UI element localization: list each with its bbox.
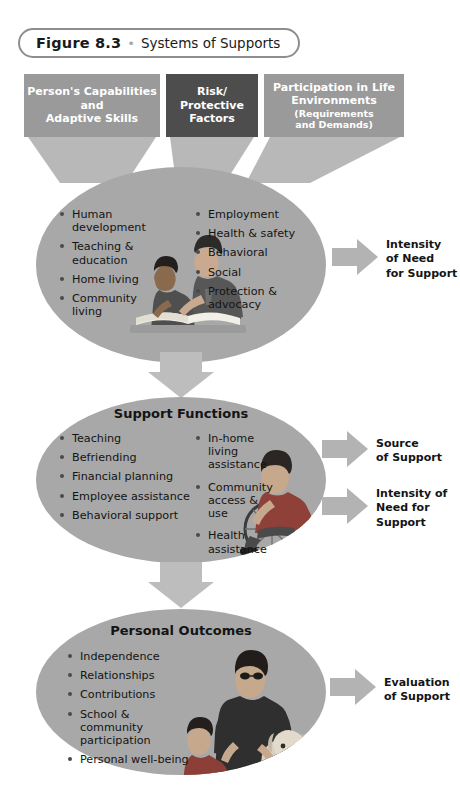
label-line-1: Intensity (386, 238, 458, 252)
label-line-3: Support (376, 516, 454, 530)
list-item: Independence (68, 650, 190, 663)
arrow-evaluation-of-support (330, 669, 376, 705)
label-evaluation-of-support: Evaluation of Support (384, 676, 460, 705)
list-item: Teaching & education (60, 240, 188, 266)
bullet-list-support-functions-right: In-home living assistance Community acce… (196, 432, 274, 562)
bullet-list-support-areas-left: Human development Teaching & education H… (60, 208, 188, 325)
list-item: Human development (60, 208, 188, 234)
label-line-2: of Support (376, 451, 454, 465)
list-item: Relationships (68, 669, 190, 682)
label-source-of-support: Source of Support (376, 437, 454, 466)
list-item: Home living (60, 273, 188, 286)
list-item: Health & safety (196, 227, 296, 240)
list-item: Protection & advocacy (196, 285, 280, 311)
arrow-intensity-of-need-1 (332, 239, 378, 275)
list-item: Community living (60, 292, 138, 318)
connector-arrow-functions-to-outcomes (148, 562, 214, 608)
list-item: Employment (196, 208, 296, 221)
ellipse-title-support-functions: Support Functions (81, 406, 281, 421)
label-line-1: Intensity of (376, 487, 454, 501)
list-item: Financial planning (60, 470, 190, 483)
label-line-1: Evaluation (384, 676, 460, 690)
label-line-1: Source (376, 437, 454, 451)
arrow-source-of-support (322, 431, 368, 467)
bullet-list-support-functions-left: Teaching Befriending Financial planning … (60, 432, 190, 528)
list-item: Behavioral (196, 246, 296, 259)
list-item: Health assistance (196, 529, 274, 555)
list-item: Teaching (60, 432, 190, 445)
list-item: Personal well-being (68, 753, 190, 766)
arrow-intensity-of-need-2 (322, 488, 368, 524)
funnel-participation-to-ellipse (246, 137, 400, 183)
list-item: Befriending (60, 451, 190, 464)
label-line-2: of Need (386, 252, 458, 266)
list-item: In-home living assistance (196, 432, 274, 472)
ellipse-title-personal-outcomes: Personal Outcomes (81, 623, 281, 638)
list-item: School & community participation (68, 708, 190, 748)
list-item: Contributions (68, 688, 190, 701)
label-line-3: for Support (386, 267, 458, 281)
label-line-2: Need for (376, 501, 454, 515)
bullet-list-personal-outcomes: Independence Relationships Contributions… (68, 650, 190, 773)
label-intensity-of-need-for-support-1: Intensity of Need for Support (386, 238, 458, 281)
label-line-2: of Support (384, 690, 460, 704)
list-item: Employee assistance (60, 490, 190, 503)
bullet-list-support-areas-right: Employment Health & safety Behavioral So… (196, 208, 296, 317)
list-item: Community access & use (196, 481, 274, 521)
list-item: Behavioral support (60, 509, 190, 522)
label-intensity-of-need-for-support-2: Intensity of Need for Support (376, 487, 454, 530)
figure-canvas: Figure 8.3 • Systems of Supports Person'… (0, 0, 460, 805)
list-item: Social (196, 266, 296, 279)
